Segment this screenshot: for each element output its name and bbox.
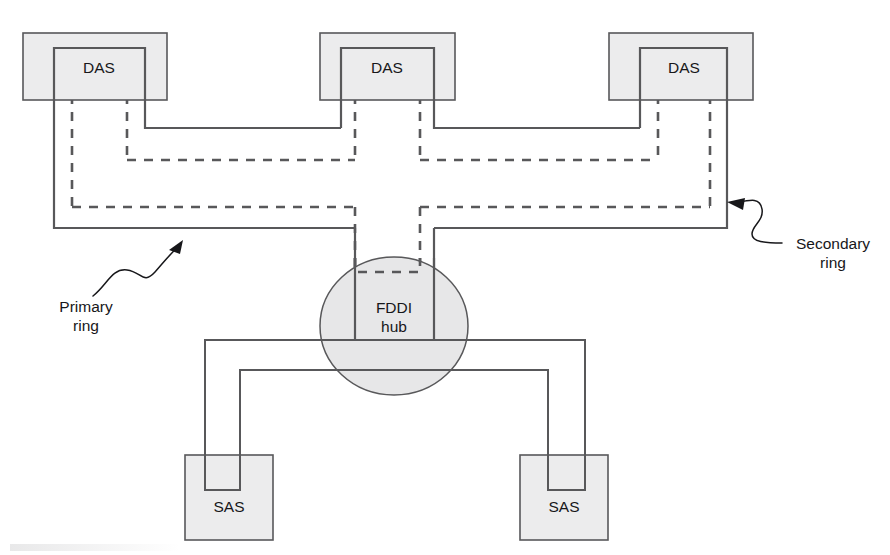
node-das-right[interactable]: DAS (609, 33, 753, 100)
diagram-canvas: DAS DAS DAS (0, 0, 890, 555)
node-das-middle[interactable]: DAS (320, 33, 455, 100)
annotation-primary-ring: Primary ring (59, 240, 183, 334)
primary-ring-segment-das-mid-to-right (434, 100, 640, 128)
primary-ring-segment-left-to-hub (54, 100, 355, 228)
primary-ring-label-line2: ring (73, 317, 99, 334)
node-sas-left[interactable]: SAS (185, 455, 273, 540)
secondary-ring-path (72, 95, 710, 272)
fddi-topology-diagram: DAS DAS DAS (0, 0, 890, 555)
primary-ring-leader-line (93, 247, 178, 296)
fddi-hub-label-line2: hub (381, 318, 407, 335)
node-fddi-hub[interactable]: FDDI hub (320, 257, 468, 395)
secondary-ring-arrowhead (727, 198, 745, 210)
primary-ring-label-line1: Primary (59, 298, 113, 315)
primary-ring-segment-right-to-hub (434, 100, 727, 228)
primary-ring-segment-das-left-to-mid (145, 100, 341, 128)
sas-left-label: SAS (213, 498, 244, 515)
secondary-ring-label-line2: ring (820, 254, 846, 271)
das-middle-label: DAS (371, 59, 403, 76)
node-sas-right[interactable]: SAS (520, 455, 608, 540)
das-left-label: DAS (83, 59, 115, 76)
sas-right-label: SAS (548, 498, 579, 515)
primary-ring-arrowhead (169, 240, 183, 254)
annotation-secondary-ring: Secondary ring (727, 198, 870, 271)
node-das-left[interactable]: DAS (23, 33, 167, 100)
fddi-hub-label-line1: FDDI (376, 299, 412, 316)
secondary-ring-label-line1: Secondary (796, 235, 870, 252)
das-right-label: DAS (668, 59, 700, 76)
